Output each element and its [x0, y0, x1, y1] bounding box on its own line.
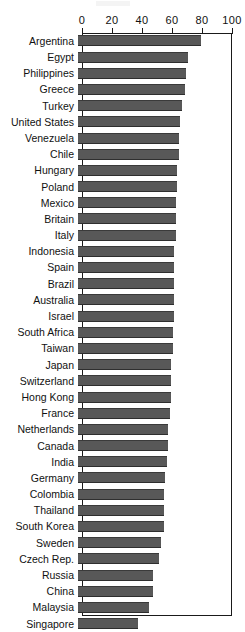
bar [78, 133, 179, 144]
category-label: United States [0, 117, 78, 128]
bar-lane [78, 616, 245, 632]
category-label: Israel [0, 311, 78, 322]
bar-row: Mexico [0, 195, 245, 211]
category-label: Chile [0, 149, 78, 160]
bar-row: Brazil [0, 276, 245, 292]
bar-lane [78, 405, 245, 421]
bar [78, 84, 185, 95]
category-label: Australia [0, 295, 78, 306]
category-label: Hong Kong [0, 392, 78, 403]
bar-row: Germany [0, 470, 245, 486]
bar-row: Canada [0, 438, 245, 454]
category-label: Poland [0, 182, 78, 193]
category-label: Brazil [0, 279, 78, 290]
bar [78, 165, 177, 176]
bar-row: Philippines [0, 65, 245, 81]
bar-row: Czech Rep. [0, 551, 245, 567]
category-label: Russia [0, 570, 78, 581]
bar [78, 440, 168, 451]
category-label: Indonesia [0, 246, 78, 257]
category-label: Egypt [0, 52, 78, 63]
bar-lane [78, 276, 245, 292]
bar-lane [78, 308, 245, 324]
category-label: Mexico [0, 198, 78, 209]
category-label: Czech Rep. [0, 554, 78, 565]
category-label: Britain [0, 214, 78, 225]
bar [78, 68, 186, 79]
category-label: Greece [0, 84, 78, 95]
x-tick-label-40: 40 [136, 14, 149, 26]
category-label: Sweden [0, 538, 78, 549]
category-label: Netherlands [0, 424, 78, 435]
bar-lane [78, 389, 245, 405]
bar-row: Israel [0, 308, 245, 324]
bar-row: Spain [0, 260, 245, 276]
bar-row: India [0, 454, 245, 470]
bar-row: France [0, 405, 245, 421]
bar-rows: ArgentinaEgyptPhilippinesGreeceTurkeyUni… [0, 33, 245, 632]
bar-lane [78, 535, 245, 551]
bar [78, 392, 171, 403]
bar [78, 359, 171, 370]
bar [78, 343, 173, 354]
category-label: Italy [0, 230, 78, 241]
bar [78, 570, 153, 581]
category-label: Spain [0, 262, 78, 273]
bar-lane [78, 470, 245, 486]
bar-lane [78, 600, 245, 616]
bar [78, 213, 176, 224]
bar-row: Malaysia [0, 600, 245, 616]
bar-lane [78, 260, 245, 276]
bar [78, 278, 174, 289]
bar [78, 35, 201, 46]
x-tick-label-80: 80 [196, 14, 209, 26]
x-tick-label-60: 60 [166, 14, 179, 26]
category-label: France [0, 408, 78, 419]
bar-row: Italy [0, 227, 245, 243]
category-label: Singapore [0, 619, 78, 630]
bar-row: Britain [0, 211, 245, 227]
bar [78, 537, 161, 548]
bar-row: Argentina [0, 33, 245, 49]
bar-lane [78, 130, 245, 146]
bar-row: South Korea [0, 519, 245, 535]
category-label: Venezuela [0, 133, 78, 144]
bar-lane [78, 163, 245, 179]
bar-lane [78, 341, 245, 357]
bar-lane [78, 519, 245, 535]
bar-row: Russia [0, 567, 245, 583]
bar-row: Turkey [0, 98, 245, 114]
bar-row: Thailand [0, 502, 245, 518]
bar-lane [78, 227, 245, 243]
x-tick-label-100: 100 [222, 14, 241, 26]
bar-row: China [0, 583, 245, 599]
category-label: Japan [0, 360, 78, 371]
bar-row: South Africa [0, 324, 245, 340]
bar [78, 262, 174, 273]
bar [78, 100, 182, 111]
bar-row: Poland [0, 179, 245, 195]
bar [78, 553, 159, 564]
category-label: South Korea [0, 521, 78, 532]
x-tick-label-0: 0 [79, 14, 85, 26]
bar-lane [78, 146, 245, 162]
bar-lane [78, 486, 245, 502]
bar [78, 472, 165, 483]
bar-lane [78, 98, 245, 114]
bar [78, 586, 153, 597]
category-label: Colombia [0, 489, 78, 500]
bar [78, 230, 176, 241]
bar-row: Hungary [0, 163, 245, 179]
bar-lane [78, 179, 245, 195]
category-label: Germany [0, 473, 78, 484]
category-label: Turkey [0, 101, 78, 112]
bar-row: Colombia [0, 486, 245, 502]
category-label: South Africa [0, 327, 78, 338]
bar [78, 424, 168, 435]
bar-row: Greece [0, 82, 245, 98]
bar-row: Singapore [0, 616, 245, 632]
category-label: Hungary [0, 165, 78, 176]
bar [78, 246, 174, 257]
category-label: China [0, 586, 78, 597]
